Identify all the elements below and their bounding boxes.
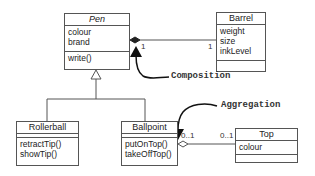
class-pen-attributes: colour brand xyxy=(65,26,129,52)
multiplicity-top-end: 0..1 xyxy=(220,131,233,140)
class-ballpoint[interactable]: Ballpoint putOnTop() takeOffTop() xyxy=(121,121,178,166)
class-barrel-operations xyxy=(217,61,265,71)
class-pen-operations: write() xyxy=(65,52,129,64)
class-pen[interactable]: Pen colour brand write() xyxy=(64,13,130,70)
attribute: size xyxy=(220,36,262,46)
composition-diamond-icon xyxy=(130,37,140,43)
class-rollerball-operations: retractTip() showTip() xyxy=(17,138,78,160)
class-pen-title: Pen xyxy=(65,14,129,26)
composition-label: Composition xyxy=(171,71,230,81)
class-top[interactable]: Top colour xyxy=(235,128,298,163)
attribute: brand xyxy=(68,37,126,47)
class-barrel[interactable]: Barrel weight size inkLevel xyxy=(216,12,266,72)
class-rollerball-title: Rollerball xyxy=(17,122,78,134)
generalization-arrow-icon xyxy=(91,70,101,79)
attribute: colour xyxy=(68,27,126,37)
class-top-attributes: colour xyxy=(236,141,297,155)
class-barrel-attributes: weight size inkLevel xyxy=(217,25,265,61)
multiplicity-pen-end: 1 xyxy=(141,42,145,51)
attribute: inkLevel xyxy=(220,46,262,56)
attribute: colour xyxy=(239,142,294,152)
operation: showTip() xyxy=(20,149,75,159)
multiplicity-ballpoint-end: 0..1 xyxy=(181,131,194,140)
operation: write() xyxy=(68,53,126,63)
aggregation-label: Aggregation xyxy=(221,100,280,110)
class-barrel-title: Barrel xyxy=(217,13,265,25)
attribute: weight xyxy=(220,26,262,36)
operation: takeOffTop() xyxy=(125,149,174,159)
class-top-operations xyxy=(236,155,297,163)
aggregation-diamond-icon xyxy=(178,141,188,147)
class-rollerball[interactable]: Rollerball retractTip() showTip() xyxy=(16,121,79,166)
class-ballpoint-operations: putOnTop() takeOffTop() xyxy=(122,138,177,160)
operation: retractTip() xyxy=(20,139,75,149)
operation: putOnTop() xyxy=(125,139,174,149)
multiplicity-barrel-end: 1 xyxy=(208,42,212,51)
class-ballpoint-title: Ballpoint xyxy=(122,122,177,134)
class-top-title: Top xyxy=(236,129,297,141)
